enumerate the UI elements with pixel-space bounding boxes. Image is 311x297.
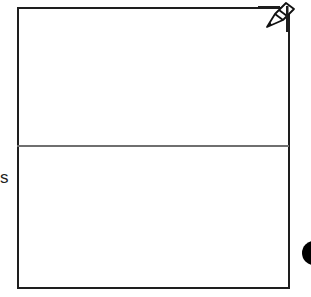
filled-circle-icon [302,241,311,265]
pencil-icon[interactable] [258,0,311,32]
panel-divider [17,145,289,147]
drawing-frame [17,7,290,289]
side-label: s [0,169,9,186]
